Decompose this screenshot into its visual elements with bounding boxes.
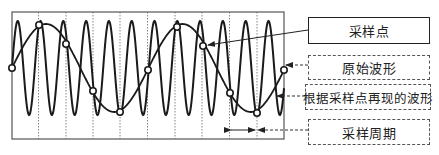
sample-point-marker bbox=[200, 43, 206, 49]
sample-point-marker bbox=[174, 24, 180, 30]
sample-point-marker bbox=[145, 67, 151, 73]
sample-point-marker bbox=[281, 67, 287, 73]
sampling-period-label: 采样周期 bbox=[308, 119, 430, 145]
sample-point-marker bbox=[254, 110, 260, 116]
sample-point-label: 采样点 bbox=[308, 17, 430, 44]
sample-point-marker bbox=[9, 65, 15, 71]
sample-point-marker bbox=[63, 41, 69, 47]
sample-point-leader-line bbox=[208, 30, 308, 45]
sample-point-marker bbox=[117, 109, 123, 115]
sample-point-marker bbox=[90, 88, 96, 94]
sample-point-marker bbox=[36, 22, 42, 28]
reconstructed-waveform-label: 根据采样点再现的波形 bbox=[305, 84, 431, 110]
sample-point-marker bbox=[227, 90, 233, 96]
sample-points bbox=[9, 22, 287, 116]
original-waveform-label: 原始波形 bbox=[308, 55, 430, 80]
